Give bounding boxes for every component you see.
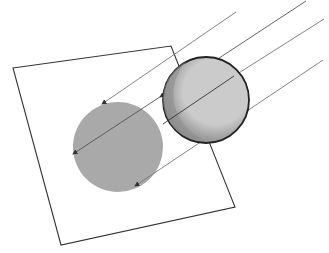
shadow-diagram [0,0,329,253]
shadow-circle [73,102,163,192]
light-ray-3 [234,19,324,76]
sphere [163,57,249,143]
